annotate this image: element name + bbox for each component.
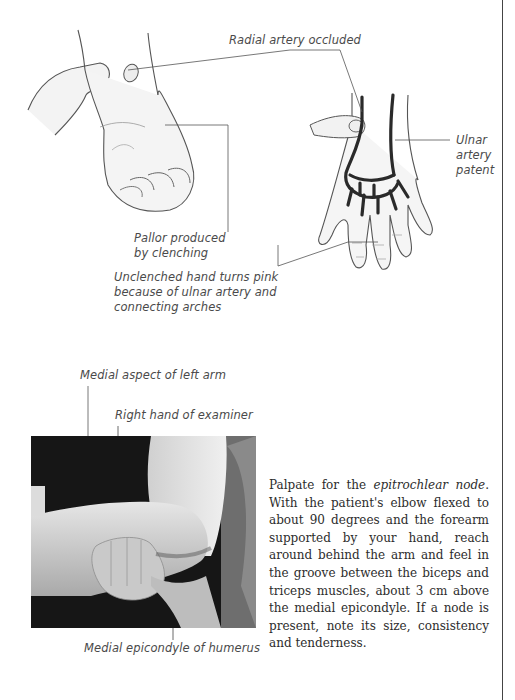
ulnar-label-line-1: Ulnar	[456, 133, 494, 148]
pallor-label-line-1: Pallor produced	[134, 231, 226, 246]
elbow-palpation-photo	[31, 436, 256, 628]
ulnar-label-line-3: patent	[456, 163, 494, 178]
elbow-photo-drawing	[31, 436, 256, 628]
label-right-hand-examiner: Right hand of examiner	[115, 408, 253, 423]
body-text-term-epitrochlear-node: epitrochlear node	[373, 478, 485, 492]
body-text-intro: Palpate for the	[269, 478, 373, 492]
label-medial-aspect-left-arm: Medial aspect of left arm	[80, 368, 226, 383]
textbook-page: Radial artery occluded Ulnar artery pate…	[0, 0, 515, 700]
body-text-rest: . With the patient's elbow flexed to abo…	[269, 478, 489, 650]
pallor-label-line-2: by clenching	[134, 246, 226, 261]
label-ulnar-artery-patent: Ulnar artery patent	[456, 133, 494, 178]
body-paragraph: Palpate for the epitrochlear node. With …	[269, 477, 489, 653]
label-medial-epicondyle-humerus: Medial epicondyle of humerus	[84, 641, 260, 656]
label-pallor-produced: Pallor produced by clenching	[134, 231, 226, 261]
unclenched-label-line-3: connecting arches	[114, 300, 278, 315]
unclenched-label-line-2: because of ulnar artery and	[114, 285, 278, 300]
ulnar-label-line-2: artery	[456, 148, 494, 163]
unclenched-label-line-1: Unclenched hand turns pink	[114, 270, 278, 285]
label-unclenched-hand: Unclenched hand turns pink because of ul…	[114, 270, 278, 315]
